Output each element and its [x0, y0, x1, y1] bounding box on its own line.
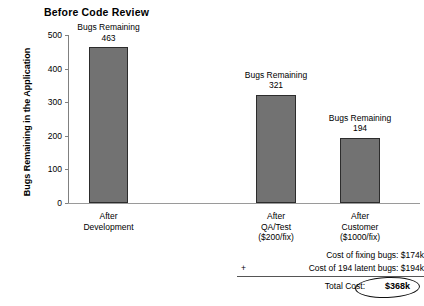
x-axis-line — [68, 203, 420, 204]
bar-annotation-1: Bugs Remaining 463 — [59, 22, 158, 43]
y-tick-mark — [65, 169, 68, 170]
total-cost-value: $368k — [385, 278, 410, 294]
bar-chart: Before Code Review Bugs Remaining in the… — [0, 0, 424, 306]
x-label-line2: Customer — [310, 222, 410, 233]
y-tick-label-0: 0 — [38, 199, 62, 208]
bar-after-development — [89, 47, 128, 203]
x-label-line1: After — [310, 211, 410, 222]
cost-row-fixing: Cost of fixing bugs: $174k — [232, 249, 424, 262]
x-axis-label-3: After Customer ($1000/fix) — [310, 211, 410, 243]
bar-value-label: 463 — [59, 33, 158, 44]
bar-value-label: 321 — [226, 80, 326, 91]
x-label-line2: Development — [59, 222, 158, 233]
cost-latent-text: Cost of 194 latent bugs: $194k — [309, 263, 424, 273]
bar-after-qa-test — [256, 95, 296, 203]
bar-value-label: 194 — [310, 123, 410, 134]
page-title: Before Code Review — [44, 6, 149, 18]
plus-sign-icon: + — [241, 262, 246, 275]
y-tick-label-300: 300 — [38, 98, 62, 107]
bar-annotation-3: Bugs Remaining 194 — [310, 113, 410, 134]
y-tick-mark — [65, 203, 68, 204]
y-tick-mark — [65, 102, 68, 103]
y-axis-line — [68, 35, 69, 203]
bar-annotation-text: Bugs Remaining — [329, 113, 391, 123]
x-label-line3: ($1000/fix) — [310, 232, 410, 243]
cost-row-total: Total Cost: $368k — [232, 278, 424, 294]
y-axis-label: Bugs Remaining in the Application — [22, 32, 32, 212]
x-axis-label-1: After Development — [59, 211, 158, 232]
cost-fixing-text: Cost of fixing bugs: $174k — [326, 250, 424, 260]
bar-annotation-text: Bugs Remaining — [77, 22, 139, 32]
y-tick-mark — [65, 69, 68, 70]
cost-row-latent: + Cost of 194 latent bugs: $194k — [232, 262, 424, 275]
bar-annotation-text: Bugs Remaining — [245, 70, 307, 80]
y-tick-label-100: 100 — [38, 165, 62, 174]
bar-annotation-2: Bugs Remaining 321 — [226, 70, 326, 91]
bar-after-customer — [340, 138, 380, 203]
plot-area: 500 400 300 200 100 0 Bugs Remaining 463… — [68, 35, 420, 203]
cost-summary: Cost of fixing bugs: $174k + Cost of 194… — [232, 249, 424, 275]
y-tick-label-400: 400 — [38, 65, 62, 74]
y-tick-mark — [65, 136, 68, 137]
x-label-line1: After — [59, 211, 158, 222]
y-tick-label-200: 200 — [38, 132, 62, 141]
